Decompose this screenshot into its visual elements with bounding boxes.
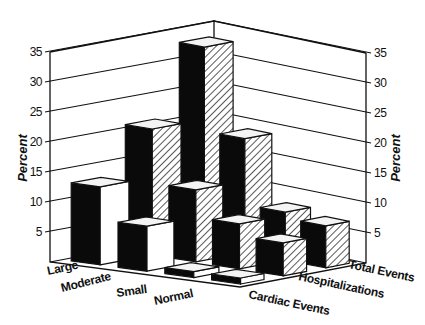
tick-label-left: 5 (36, 225, 43, 239)
tick-label-left: 10 (30, 195, 43, 209)
bar-total-events-normal (301, 216, 350, 267)
3d-bar-chart: 55101015152020252530303535PercentPercent… (0, 0, 425, 325)
bar-dark-face (118, 222, 147, 271)
right-axis-title: Percent (388, 133, 403, 181)
bar-light-face (326, 221, 349, 267)
tick-label-right: 30 (374, 76, 387, 90)
gridline-right (214, 21, 371, 53)
tick-label-left: 30 (30, 75, 43, 89)
category-label-large: Large (46, 258, 80, 278)
bar-hospitalizations-normal (256, 234, 307, 276)
tick-label-right: 25 (374, 106, 387, 120)
bar-dark-face (213, 220, 240, 269)
tick-label-right: 15 (374, 166, 387, 180)
bar-light-face (147, 221, 174, 271)
gridline-right (214, 81, 371, 113)
tick-label-left: 25 (30, 105, 43, 119)
bar-dark-face (71, 183, 100, 265)
bar-cardiac-events-moderate (118, 217, 174, 271)
series-label-cardiac-events: Cardiac Events (247, 287, 331, 318)
gridline-right (214, 51, 371, 83)
category-label-small: Small (115, 282, 147, 300)
bar-dark-face (256, 239, 283, 276)
tick-label-right: 20 (374, 136, 387, 150)
left-axis-title: Percent (15, 133, 30, 181)
tick-label-right: 35 (374, 46, 387, 60)
tick-label-left: 15 (30, 165, 43, 179)
tick-label-right: 5 (374, 226, 381, 240)
tick-label-left: 20 (30, 135, 43, 149)
tick-label-left: 35 (30, 45, 43, 59)
category-label-normal: Normal (153, 286, 195, 308)
tick-label-right: 10 (374, 196, 387, 210)
